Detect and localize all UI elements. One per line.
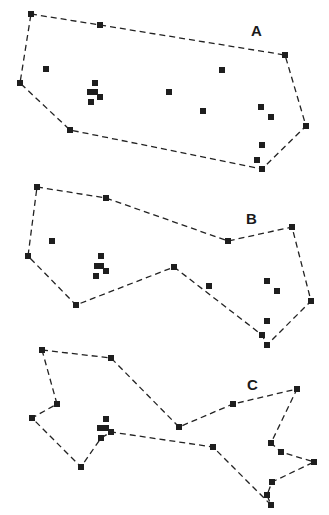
data-point [103,268,109,274]
data-point [28,11,34,17]
data-point [92,80,98,86]
data-point [49,238,55,244]
data-point [108,355,114,361]
data-point [39,347,45,353]
data-point [78,464,84,470]
data-point [34,184,40,190]
data-point [43,66,49,72]
data-point [73,302,79,308]
data-point [171,264,177,270]
data-point [289,224,295,230]
data-point [274,288,280,294]
convex-hull-diagram: ABC [0,0,329,515]
panel-a: A [17,11,309,172]
data-point [17,80,23,86]
data-point [308,298,314,304]
data-point [103,416,109,422]
data-point [259,166,265,172]
data-point [88,99,94,105]
data-point [268,502,274,508]
data-point [103,195,109,201]
data-point [264,492,270,498]
panel-b: B [25,184,314,348]
data-point [268,114,274,120]
diagram-canvas: ABC [0,0,329,515]
data-point [200,108,206,114]
data-point [303,123,309,129]
data-point [98,435,104,441]
data-point [93,273,99,279]
data-point [29,415,35,421]
data-point [176,424,182,430]
data-point [269,479,275,485]
panel-label: A [251,22,262,39]
data-point [210,444,216,450]
data-point [98,253,104,259]
panel-label: C [247,376,258,393]
data-point [282,52,288,58]
data-point [268,440,274,446]
panel-label: B [246,210,257,227]
data-point [230,401,236,407]
panel-c: C [29,347,317,508]
data-point [97,94,103,100]
data-point [206,283,212,289]
data-point [258,104,264,110]
data-point [311,459,317,465]
data-point [259,332,265,338]
data-point [259,142,265,148]
data-point [166,89,172,95]
data-point [264,278,270,284]
data-point [97,425,103,431]
data-point [225,238,231,244]
data-point [108,429,114,435]
data-point [254,157,260,163]
data-point [264,342,270,348]
data-point [294,386,300,392]
data-point [54,401,60,407]
data-point [264,318,270,324]
data-point [97,22,103,28]
data-point [25,253,31,259]
data-point [278,449,284,455]
data-point [67,127,73,133]
data-point [219,67,225,73]
